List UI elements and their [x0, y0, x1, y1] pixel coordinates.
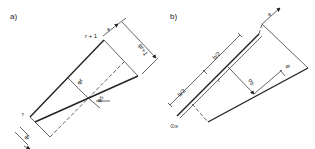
s-axis-arrow-b: [262, 8, 280, 24]
upper-edge-inner: [180, 36, 262, 118]
wedge-right-edge: [104, 40, 138, 76]
half-width-label-2: b/2: [211, 50, 222, 61]
dim-mid-label-b: σs: [247, 78, 256, 87]
dim-angle-label-b: θ: [284, 64, 291, 70]
node-bottom-label: r: [22, 111, 24, 117]
dim-tick-2: [203, 70, 207, 74]
dim-bottom-label: φr: [23, 132, 31, 140]
wedge-upper-edge: [30, 40, 104, 117]
node-top-label: r + 1: [85, 33, 98, 39]
wedge-bottom-edge: [35, 122, 50, 137]
dim-angle-label: φs: [96, 95, 105, 104]
panel-b-label: b): [170, 12, 177, 21]
dim-ext-top1: [118, 18, 126, 24]
wedge-lower-edge: [35, 76, 138, 122]
s-axis-label-b: s: [268, 11, 271, 17]
lower-edge: [208, 68, 308, 122]
panel-a-label: a): [10, 12, 17, 21]
s-axis-arrow: [103, 24, 118, 36]
dim-top-label: φr+1: [137, 43, 149, 58]
upper-edge: [177, 34, 259, 116]
panel-b: b) s b/2 b/2 t σs θ ⊙x: [168, 8, 308, 129]
panel-a: a) r + 1 r s φr+1 φr φs φr: [10, 12, 158, 149]
dim-mid-label: φr: [76, 77, 84, 85]
s-axis-label: s: [107, 26, 110, 32]
half-width-label-1: b/2: [176, 87, 187, 98]
right-edge-top: [262, 24, 308, 68]
left-edge: [192, 104, 208, 122]
wedge-left-edge: [30, 117, 35, 122]
diagram-canvas: a) r + 1 r s φr+1 φr φs φr b): [0, 0, 315, 149]
dim-ext-top2: [142, 58, 158, 74]
dim-angle-line: [254, 70, 282, 94]
dim-line-top: [122, 22, 156, 58]
bottom-axis-arrow: [24, 146, 30, 149]
dim-angle-tick: [280, 70, 285, 76]
origin-label: ⊙x: [170, 123, 178, 129]
top-edge: [259, 24, 262, 34]
